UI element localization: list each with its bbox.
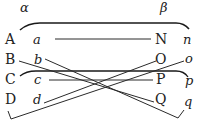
label-b: b — [34, 52, 42, 67]
label-N: N — [155, 31, 167, 47]
label-p: p — [185, 73, 194, 88]
connector-d-O — [44, 61, 156, 103]
label-B: B — [5, 51, 15, 67]
label-q: q — [184, 94, 192, 109]
label-o: o — [185, 51, 193, 66]
label-beta: β — [159, 0, 168, 15]
label-D: D — [5, 91, 16, 107]
label-d: d — [33, 92, 41, 107]
label-A: A — [4, 31, 16, 47]
label-alpha: α — [20, 0, 29, 15]
connector-A-n — [20, 23, 189, 30]
label-Q: Q — [155, 91, 166, 107]
label-n: n — [183, 32, 191, 47]
label-P: P — [156, 71, 165, 87]
label-c: c — [34, 72, 42, 87]
connector-D-o — [8, 61, 184, 119]
pairing-diagram: α β A a N n B b O o C c P p D d Q q — [0, 0, 200, 125]
label-O: O — [155, 51, 166, 67]
label-a: a — [33, 32, 41, 47]
label-C: C — [5, 71, 16, 87]
